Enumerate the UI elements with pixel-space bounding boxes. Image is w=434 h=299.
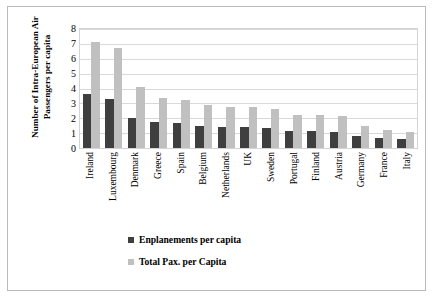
legend-swatch-icon <box>128 259 134 265</box>
x-axis-label-cell: Sweden <box>260 150 283 212</box>
chart-container: Number of Intra-European Air Passengers … <box>0 0 434 299</box>
chart-outer-frame: Number of Intra-European Air Passengers … <box>7 6 426 291</box>
bars-layer <box>80 29 417 148</box>
x-axis-label-cell: Austria <box>328 150 351 212</box>
x-axis-label-cell: UK <box>237 150 260 212</box>
y-axis-tick: 5 <box>71 68 76 79</box>
y-axis-tick: 1 <box>71 128 76 139</box>
bar <box>240 127 249 148</box>
bar-group <box>215 29 237 148</box>
x-axis-label: Luxembourg <box>108 152 118 201</box>
plot-area <box>79 28 418 149</box>
bar-group <box>237 29 259 148</box>
bar-group <box>282 29 304 148</box>
x-axis-label-cell: Finland <box>305 150 328 212</box>
bar <box>226 107 235 148</box>
x-axis-label: Greece <box>153 152 163 179</box>
y-axis-tick: 7 <box>71 38 76 49</box>
x-axis-label-cell: Spain <box>169 150 192 212</box>
x-axis-label-cell: France <box>373 150 396 212</box>
x-axis-label-cell: Ireland <box>79 150 102 212</box>
x-axis-label: France <box>379 152 389 178</box>
bar <box>307 131 316 148</box>
chart-legend: Enplanements per capitaTotal Pax. per Ca… <box>128 234 348 278</box>
x-axis-label: Netherlands <box>221 152 231 198</box>
y-axis-title: Number of Intra-European Air Passengers … <box>29 12 53 142</box>
legend-item[interactable]: Total Pax. per Capita <box>128 256 348 267</box>
bar <box>406 132 415 148</box>
bar <box>173 123 182 148</box>
bar <box>218 127 227 148</box>
y-axis-tick: 4 <box>71 83 76 94</box>
x-axis-category-labels: IrelandLuxembourgDenmarkGreeceSpainBelgi… <box>79 150 418 212</box>
bar <box>271 109 280 148</box>
y-axis-tick: 8 <box>71 23 76 34</box>
x-axis-label: Denmark <box>130 152 140 187</box>
y-axis-tick: 3 <box>71 98 76 109</box>
bar <box>338 116 347 148</box>
bar <box>316 115 325 148</box>
x-axis-label-cell: Greece <box>147 150 170 212</box>
x-axis-label-cell: Netherlands <box>215 150 238 212</box>
legend-label: Total Pax. per Capita <box>139 256 226 267</box>
x-axis-label: Finland <box>311 152 321 181</box>
bar-group <box>147 29 169 148</box>
bar <box>159 98 168 148</box>
x-axis-label-cell: Belgium <box>192 150 215 212</box>
x-axis-label: Austria <box>334 152 344 180</box>
legend-label: Enplanements per capita <box>139 234 241 245</box>
x-axis-label: Italy <box>402 152 412 169</box>
bar <box>383 130 392 148</box>
x-axis-label-cell: Denmark <box>124 150 147 212</box>
bar-group <box>192 29 214 148</box>
x-axis-label-cell: Portugal <box>282 150 305 212</box>
x-axis-label: Portugal <box>289 152 299 184</box>
bar <box>114 48 123 148</box>
bar-group <box>125 29 147 148</box>
bar-group <box>327 29 349 148</box>
bar <box>249 107 258 148</box>
legend-swatch-icon <box>128 237 134 243</box>
y-axis-tick: 0 <box>71 143 76 154</box>
bar <box>128 118 137 148</box>
bar-group <box>80 29 102 148</box>
bar-group <box>102 29 124 148</box>
x-axis-label: Germany <box>356 152 366 187</box>
x-axis-label: Spain <box>176 152 186 174</box>
bar <box>195 126 204 148</box>
bar-group <box>170 29 192 148</box>
bar <box>352 136 361 148</box>
bar <box>136 87 145 148</box>
bar <box>397 139 406 148</box>
y-axis-tick: 2 <box>71 113 76 124</box>
bar-group <box>372 29 394 148</box>
bar-group <box>305 29 327 148</box>
bar <box>150 122 159 148</box>
x-axis-label: Ireland <box>85 152 95 179</box>
bar <box>91 42 100 148</box>
bar <box>293 115 302 148</box>
x-axis-label: Belgium <box>198 152 208 185</box>
legend-item[interactable]: Enplanements per capita <box>128 234 348 245</box>
bar <box>105 99 114 148</box>
y-axis-title-wrapper: Number of Intra-European Air Passengers … <box>18 23 64 153</box>
x-axis-label-cell: Italy <box>395 150 418 212</box>
bar-group <box>395 29 417 148</box>
y-axis-tick: 6 <box>71 53 76 64</box>
bar <box>204 105 213 148</box>
bar <box>262 128 271 148</box>
x-axis-label: Sweden <box>266 152 276 182</box>
x-axis-label-cell: Germany <box>350 150 373 212</box>
y-axis-tick-labels: 876543210 <box>60 22 76 155</box>
bar <box>330 132 339 148</box>
bar <box>83 94 92 148</box>
x-axis-label-cell: Luxembourg <box>102 150 125 212</box>
bar <box>285 131 294 148</box>
bar <box>181 100 190 148</box>
bar <box>361 126 370 148</box>
bar-group <box>260 29 282 148</box>
bar-group <box>350 29 372 148</box>
bar <box>375 138 384 148</box>
x-axis-label: UK <box>243 152 253 166</box>
